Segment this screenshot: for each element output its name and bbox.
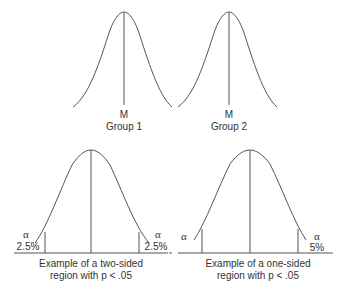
one-sided-right-pct: 5%: [305, 243, 329, 253]
two-sided-left-alpha: α: [20, 229, 32, 240]
two-sided-right-pct: 2.5%: [142, 242, 170, 252]
two-sided-curve: [35, 150, 149, 243]
group1-curve: [73, 12, 172, 107]
two-sided-right-alpha: α: [152, 229, 164, 240]
group1-label: Group 1: [94, 122, 154, 132]
one-sided-right-alpha: α: [311, 231, 323, 242]
group2-curve: [178, 12, 277, 107]
one-sided-caption-line1: Example of a one-sided: [188, 259, 328, 269]
group2-label: Group 2: [199, 122, 259, 132]
group2-mean-label: M: [219, 110, 239, 120]
group1-mean-label: M: [114, 110, 134, 120]
one-sided-left-alpha: α: [178, 231, 190, 242]
two-sided-left-pct: 2.5%: [14, 242, 42, 252]
two-sided-caption-line2: region with p < .05: [21, 271, 161, 281]
normal-curves-diagram: [0, 0, 340, 291]
one-sided-caption-line2: region with p < .05: [188, 271, 328, 281]
two-sided-caption-line1: Example of a two-sided: [21, 259, 161, 269]
